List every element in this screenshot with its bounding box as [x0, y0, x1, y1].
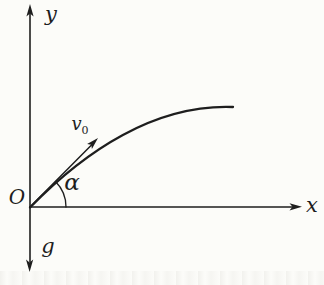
gravity-label: g — [41, 236, 54, 257]
x-axis-label: x — [306, 195, 318, 216]
initial-velocity-subscript: 0 — [82, 124, 89, 137]
initial-velocity-base: v — [71, 113, 81, 134]
projectile-motion-diagram: y x O g α v0 — [0, 0, 324, 285]
angle-label: α — [64, 171, 80, 194]
origin-label: O — [9, 187, 25, 207]
trajectory-curve — [30, 107, 233, 208]
y-axis-label: y — [45, 4, 57, 25]
initial-velocity-label: v0 — [71, 115, 88, 136]
